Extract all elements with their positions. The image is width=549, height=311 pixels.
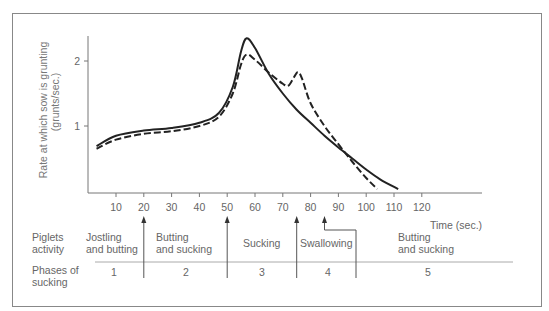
arrowhead-icon [141, 216, 146, 223]
x-tick-label: 30 [166, 201, 178, 213]
activity-butting-and-sucking-1: Butting and sucking [156, 231, 212, 255]
x-tick-label: 20 [138, 201, 150, 213]
activity-jostling-and-butting: Jostling and butting [86, 231, 138, 255]
x-tick-label: 60 [249, 201, 261, 213]
svg-text:Rate at which sow is grunting: Rate at which sow is grunting [37, 42, 49, 179]
phase-1: 1 [108, 266, 120, 278]
y-tick-label: 1 [74, 120, 80, 132]
arrowhead-icon [322, 216, 327, 223]
axes [88, 36, 482, 193]
x-tick-label: 120 [413, 201, 431, 213]
y-tick-label: 2 [74, 55, 80, 67]
x-axis-label: Time (sec.) [430, 219, 482, 231]
line-chart: 102030405060708090100110120 12 Time (sec… [0, 0, 549, 311]
x-tick-label: 100 [357, 201, 375, 213]
activity-butting-and-sucking-2: Butting and sucking [398, 231, 454, 255]
row-label-piglets-activity: Piglets activity [32, 231, 64, 255]
phase-5: 5 [422, 266, 434, 278]
x-tick-label: 10 [110, 201, 122, 213]
phase-2: 2 [180, 266, 192, 278]
activity-sucking: Sucking [243, 237, 280, 249]
phase-3: 3 [256, 266, 268, 278]
arrowhead-icon [294, 216, 299, 223]
svg-text:(grunts/sec.): (grunts/sec.) [49, 73, 61, 131]
y-ticks: 12 [74, 55, 88, 132]
y-axis-label: Rate at which sow is grunting (grunts/se… [37, 42, 61, 179]
phase-4: 4 [322, 266, 334, 278]
x-ticks: 102030405060708090100110120 [110, 193, 431, 213]
x-tick-label: 70 [277, 201, 289, 213]
x-tick-label: 80 [305, 201, 317, 213]
x-tick-label: 90 [333, 201, 345, 213]
x-tick-label: 50 [221, 201, 233, 213]
activity-swallowing: Swallowing [300, 237, 353, 249]
arrowhead-icon [225, 216, 230, 223]
row-label-phases-of-sucking: Phases of sucking [32, 264, 79, 288]
solid-series-line [97, 38, 399, 189]
x-tick-label: 40 [194, 201, 206, 213]
x-tick-label: 110 [386, 201, 403, 213]
